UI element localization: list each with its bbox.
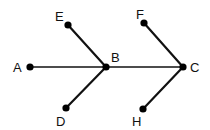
edge-h-c [143,67,183,109]
label-h: H [132,114,141,129]
label-e: E [55,9,64,24]
node-b [102,63,109,70]
label-d: D [56,114,65,129]
label-c: C [190,60,199,75]
edge-d-b [66,67,106,108]
node-a [26,63,33,70]
node-c [179,63,186,70]
label-a: A [13,60,22,75]
node-d [62,104,69,111]
graph-diagram: A B C D E F H [0,0,210,130]
nodes [26,19,186,112]
node-e [64,21,71,28]
label-b: B [111,50,120,65]
edge-f-c [144,23,183,67]
node-h [139,105,146,112]
label-f: F [136,7,144,22]
edge-e-b [68,25,106,67]
